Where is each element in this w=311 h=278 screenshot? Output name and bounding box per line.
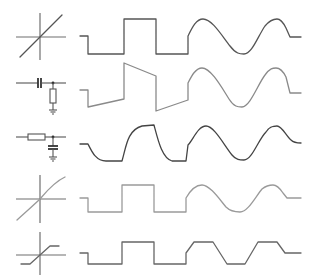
linear-transfer-characteristic-icon [16,13,66,60]
soft-nonlinear-response-waveform [80,185,301,212]
hard-limiter-response-waveform [80,242,301,264]
curved-transfer-characteristic-icon [16,175,66,223]
cr-circuit-icon [16,78,66,114]
cr-response-waveform [80,63,301,111]
diagram-svg [0,0,311,278]
linear-response-waveform [80,19,301,54]
clipping-transfer-characteristic-icon [16,232,66,275]
rc-response-waveform [80,125,301,161]
diagram-canvas [0,0,311,278]
rc-circuit-icon [16,134,66,161]
